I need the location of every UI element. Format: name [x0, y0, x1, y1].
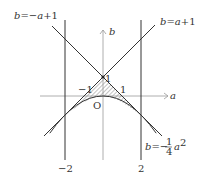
svg-text:4: 4 — [166, 146, 172, 157]
tick-a-neg1: −1 — [78, 84, 93, 95]
tick-a-neg2: −2 — [58, 163, 73, 174]
svg-text:b=−: b=− — [145, 141, 168, 152]
label-b-eq-a-plus-1: b=a+1 — [160, 16, 196, 27]
tick-a-2: 2 — [138, 163, 144, 174]
origin-label: O — [93, 100, 101, 111]
graph-canvas: b=−a+1 b=a+1 b a O 1 −1 1 −2 2 b=− 1 4 a… — [0, 0, 207, 184]
label-b-eq-neg-a-plus-1: b=−a+1 — [14, 10, 58, 21]
b-axis-label: b — [109, 26, 115, 37]
svg-text:2: 2 — [180, 137, 186, 148]
tick-a-1: 1 — [120, 84, 126, 95]
tick-b-1: 1 — [105, 73, 111, 84]
a-axis-label: a — [170, 90, 176, 101]
label-parabola: b=− 1 4 a 2 — [145, 136, 186, 157]
